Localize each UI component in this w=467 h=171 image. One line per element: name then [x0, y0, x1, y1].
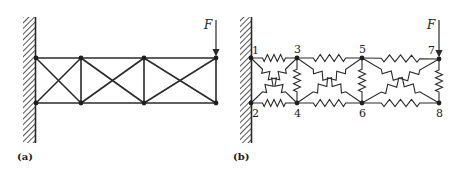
nodes-b: [249, 56, 442, 106]
force-label-b: F: [426, 18, 436, 32]
springs-b: [251, 55, 443, 107]
truss-members-a: [36, 58, 216, 103]
node-label-6: 6: [359, 107, 366, 120]
node-label-3: 3: [294, 43, 301, 56]
spring-3-4: [294, 58, 301, 103]
caption-b: (b): [233, 151, 249, 162]
spring-4-6: [297, 100, 362, 107]
node-label-5: 5: [359, 43, 366, 56]
node-label-8: 8: [436, 107, 443, 120]
force-label-a: F: [203, 18, 213, 32]
spring-7-8: [436, 59, 443, 103]
node-label-2: 2: [252, 107, 259, 120]
spring-5-6: [359, 58, 366, 103]
caption-a: (a): [17, 151, 33, 162]
figure: F (a) 1 2 3 4 5 6 7 8 F (b): [0, 0, 467, 171]
wall-a: [23, 17, 35, 143]
spring-6-8: [362, 100, 439, 107]
node-label-7: 7: [428, 44, 435, 57]
wall-b: [240, 17, 251, 143]
node-label-1: 1: [252, 44, 259, 57]
spring-3-5: [297, 55, 362, 62]
spring-2-4: [251, 100, 297, 107]
panel-a: F (a): [17, 17, 218, 162]
nodes-a: [34, 56, 219, 106]
panel-b: 1 2 3 4 5 6 7 8 F (b): [233, 17, 443, 162]
node-label-4: 4: [294, 107, 301, 120]
